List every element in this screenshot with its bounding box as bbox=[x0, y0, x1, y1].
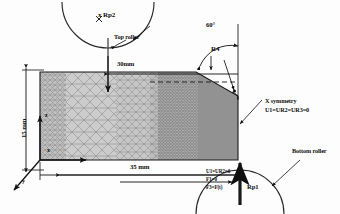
r4-point bbox=[233, 90, 236, 93]
axis-y-label: y bbox=[22, 178, 25, 184]
bottom-roller-leader bbox=[272, 160, 300, 186]
r4-annotation bbox=[224, 60, 236, 93]
axis-x-label: x bbox=[47, 147, 50, 153]
x-symmetry-leader bbox=[240, 100, 262, 124]
angle-60-label: 60° bbox=[206, 22, 215, 29]
bc-f3: F3=F(t) bbox=[206, 184, 222, 191]
axis-z-label: z bbox=[45, 112, 48, 118]
axis-y bbox=[14, 160, 40, 190]
workpiece-part bbox=[38, 70, 242, 162]
top-roller-label: Top roller bbox=[114, 34, 139, 41]
rp1-label: Rp1 bbox=[247, 184, 258, 191]
figure-canvas: x Rp2 Top roller 60° R4 30mm 35 mm 15 mm… bbox=[0, 0, 340, 214]
dim-35mm-label: 35 mm bbox=[130, 163, 149, 170]
dim-15mm-label: 15 mm bbox=[20, 119, 27, 138]
r4-label: R4 bbox=[211, 46, 219, 53]
x-symmetry-condition: U1=UR2=UR3=0 bbox=[265, 107, 309, 114]
bc-u1-ur2: U1=UR2=0 bbox=[206, 168, 230, 175]
x-symmetry-title: X symmetry bbox=[265, 98, 296, 105]
r4-leader bbox=[224, 60, 234, 90]
bc-f1: F1=0 bbox=[206, 176, 217, 183]
bottom-roller-label: Bottom roller bbox=[292, 148, 327, 155]
rp2-label: x Rp2 bbox=[98, 12, 115, 19]
dim-30mm-label: 30mm bbox=[117, 61, 134, 68]
